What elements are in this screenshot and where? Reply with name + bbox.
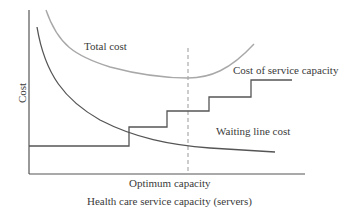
optimum-capacity-label: Optimum capacity [129,177,211,189]
total-cost-curve [46,10,254,78]
waiting-cost-label: Waiting line cost [216,125,290,137]
x-axis-label: Health care service capacity (servers) [87,195,252,207]
total-cost-label: Total cost [84,40,127,52]
y-axis-label: Cost [16,83,28,103]
service-cost-label: Cost of service capacity [233,64,338,76]
